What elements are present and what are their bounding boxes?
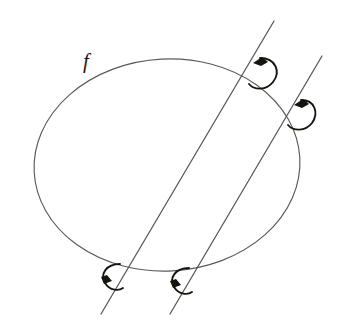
secant-line-right xyxy=(170,56,322,314)
secant-line-right-segment xyxy=(170,56,322,314)
closed-curve-f xyxy=(29,52,306,278)
orientation-arrow-top-right-line xyxy=(288,99,315,130)
curve-label-f: f xyxy=(83,49,92,73)
orientation-arrow-top-left-line xyxy=(249,57,277,89)
orientation-arrow-bottom-left-line xyxy=(101,264,123,290)
ellipse-outline xyxy=(29,52,306,278)
figure-canvas: f xyxy=(0,0,339,336)
geometry-diagram: f xyxy=(0,0,339,336)
orientation-arrow-bottom-right-line xyxy=(170,268,192,294)
